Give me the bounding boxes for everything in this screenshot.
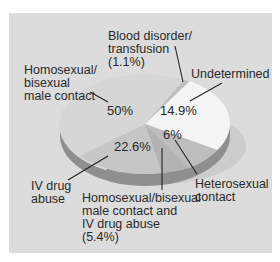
- label-heterosexual: Heterosexual contact: [195, 178, 269, 204]
- label-homosexual: Homosexual/ bisexual male contact: [24, 64, 97, 103]
- pct-heterosexual: 6%: [163, 127, 182, 142]
- pct-homosexual: 50%: [107, 103, 133, 118]
- pct-iv-drug: 22.6%: [114, 139, 151, 154]
- label-homo-iv: Homosexual/bisexual male contact and IV …: [82, 192, 201, 244]
- pct-undetermined: 14.9%: [160, 103, 197, 118]
- label-blood-disorder: Blood disorder/ transfusion (1.1%): [108, 30, 192, 69]
- label-iv-drug: IV drug abuse: [31, 180, 71, 206]
- label-undetermined: Undetermined: [191, 68, 270, 81]
